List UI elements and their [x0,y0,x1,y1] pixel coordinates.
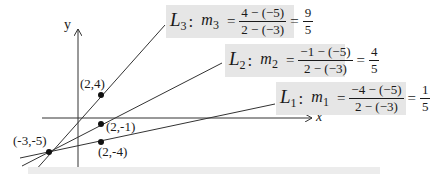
slope-result-l3: 9 5 [303,6,314,37]
slope-label-l1: L1 : m1 = −4 − (−5) 2 − (−3) = 1 5 [276,82,406,115]
slope-var-m2: m2 [260,50,278,72]
point-label-2-neg1: (2,-1) [106,119,135,135]
slope-label-l2: L2 : m2 = −1 − (−5) 2 − (−3) = 4 5 [225,44,345,77]
line-name-l3: L3 [170,9,187,34]
slope-result-l2: 4 5 [369,45,380,76]
line-name-l1: L1 [280,86,297,111]
bottom-shade-band [28,167,380,174]
slope-label-l3: L3 : m3 = 4 − (−5) 2 − (−3) = 9 5 [166,5,294,38]
point-2-4 [98,92,104,98]
equals-sign: = [337,90,345,107]
colon: : [189,12,194,32]
equals-sign: = [357,52,365,69]
equals-sign: = [286,52,294,69]
point-label-2-4: (2,4) [80,76,105,92]
point-label-neg3-neg5: (-3,-5) [13,133,47,149]
line-name-l2: L2 [229,48,246,73]
slope-var-m3: m3 [201,11,219,33]
equals-sign: = [290,13,298,30]
equals-sign: = [227,13,235,30]
line-l1 [20,104,275,158]
colon: : [299,89,304,109]
colon: : [248,51,253,71]
slope-var-m1: m1 [311,88,329,110]
point-2-neg1 [98,121,104,127]
point-neg3-neg5 [46,149,52,155]
y-axis-label: y [64,17,71,33]
slope-fraction-l3: 4 − (−5) 2 − (−3) [239,6,286,37]
slope-result-l1: 1 5 [420,83,430,114]
point-label-2-neg4: (2,-4) [98,144,127,160]
slope-fraction-l2: −1 − (−5) 2 − (−3) [298,45,352,76]
slope-fraction-l1: −4 − (−5) 2 − (−3) [349,83,403,114]
equals-sign: = [408,90,416,107]
